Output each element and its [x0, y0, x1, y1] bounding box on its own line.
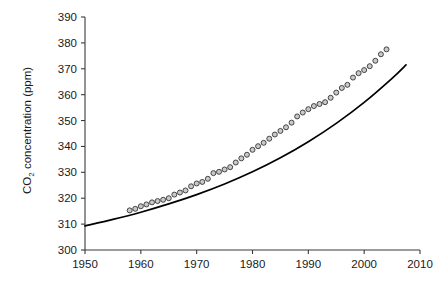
axes-group: [81, 17, 420, 254]
data-point-marker: [311, 104, 316, 109]
y-tick-marks: [81, 17, 85, 250]
data-point-marker: [317, 101, 322, 106]
y-tick-label: 330: [58, 166, 77, 178]
data-point-marker: [211, 171, 216, 176]
data-point-marker: [367, 64, 372, 69]
x-tick-label: 1990: [296, 258, 322, 270]
data-point-marker: [161, 197, 166, 202]
data-point-marker: [306, 107, 311, 112]
x-tick-marks: [85, 250, 420, 254]
data-point-marker: [378, 52, 383, 57]
data-point-marker: [295, 114, 300, 119]
data-point-marker: [345, 82, 350, 87]
data-point-marker: [177, 190, 182, 195]
data-point-marker: [384, 47, 389, 52]
data-point-marker: [351, 75, 356, 80]
data-point-marker: [272, 132, 277, 137]
data-point-marker: [328, 95, 333, 100]
co2-concentration-chart: 300310320330340350360370380390 195019601…: [0, 0, 447, 288]
x-tick-label: 2000: [351, 258, 377, 270]
y-axis-title-group: CO2 concentration (ppm): [21, 67, 36, 194]
x-tick-labels: 1950196019701980199020002010: [72, 258, 433, 270]
data-point-marker: [239, 156, 244, 161]
y-tick-label: 310: [58, 218, 77, 230]
data-point-marker: [373, 58, 378, 63]
data-point-marker: [183, 188, 188, 193]
data-point-marker: [189, 184, 194, 189]
data-point-marker: [217, 169, 222, 174]
y-tick-label: 370: [58, 63, 77, 75]
data-point-marker: [144, 202, 149, 207]
data-point-marker: [284, 125, 289, 130]
data-point-marker: [244, 152, 249, 157]
data-markers: [127, 47, 389, 213]
y-axis-title-prefix: CO: [21, 177, 33, 194]
data-point-marker: [150, 200, 155, 205]
data-point-marker: [155, 199, 160, 204]
data-point-marker: [256, 144, 261, 149]
data-point-marker: [172, 192, 177, 197]
data-point-marker: [166, 196, 171, 201]
data-point-marker: [356, 71, 361, 76]
x-tick-label: 1980: [240, 258, 266, 270]
data-point-marker: [323, 100, 328, 105]
x-tick-label: 1970: [184, 258, 210, 270]
data-point-marker: [362, 68, 367, 73]
y-axis-title: CO2 concentration (ppm): [21, 67, 36, 194]
data-point-marker: [205, 176, 210, 181]
data-point-marker: [222, 167, 227, 172]
y-tick-label: 340: [58, 140, 77, 152]
y-tick-label: 360: [58, 89, 77, 101]
y-tick-labels: 300310320330340350360370380390: [58, 11, 77, 256]
data-point-marker: [289, 120, 294, 125]
y-tick-label: 320: [58, 192, 77, 204]
data-point-marker: [334, 90, 339, 95]
data-point-marker: [267, 136, 272, 141]
data-point-marker: [339, 85, 344, 90]
y-tick-label: 390: [58, 11, 77, 23]
data-point-marker: [138, 204, 143, 209]
data-point-marker: [228, 165, 233, 170]
y-tick-label: 380: [58, 37, 77, 49]
data-point-marker: [250, 147, 255, 152]
data-point-marker: [278, 128, 283, 133]
data-point-marker: [300, 110, 305, 115]
data-point-marker: [133, 206, 138, 211]
data-point-marker: [200, 179, 205, 184]
x-tick-label: 1950: [72, 258, 98, 270]
chart-canvas: 300310320330340350360370380390 195019601…: [0, 0, 447, 288]
y-tick-label: 300: [58, 244, 77, 256]
data-point-marker: [233, 160, 238, 165]
x-tick-label: 2010: [407, 258, 433, 270]
y-tick-label: 350: [58, 115, 77, 127]
trend-line: [85, 65, 406, 226]
data-point-marker: [127, 208, 132, 213]
data-point-marker: [194, 181, 199, 186]
data-point-marker: [261, 140, 266, 145]
x-tick-label: 1960: [128, 258, 154, 270]
y-axis-title-suffix: concentration (ppm): [21, 67, 33, 173]
